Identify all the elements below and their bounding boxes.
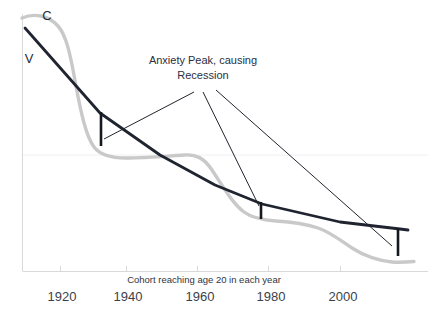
series-label-c: C xyxy=(42,8,51,23)
x-tick-label-1980: 1980 xyxy=(257,289,286,304)
annotation-line-1: Anxiety Peak, causing xyxy=(149,54,257,66)
x-tick-label-1920: 1920 xyxy=(48,289,77,304)
chart-svg: C V Anxiety Peak, causing Recession Coho… xyxy=(0,0,430,319)
x-tick-label-2000: 2000 xyxy=(329,289,358,304)
x-axis-title: Cohort reaching age 20 in each year xyxy=(127,274,281,285)
x-tick-label-1940: 1940 xyxy=(114,289,143,304)
chart-container: C V Anxiety Peak, causing Recession Coho… xyxy=(0,0,430,319)
series-label-v: V xyxy=(25,51,34,66)
annotation-line-2: Recession xyxy=(177,69,228,81)
x-tick-label-1960: 1960 xyxy=(186,289,215,304)
